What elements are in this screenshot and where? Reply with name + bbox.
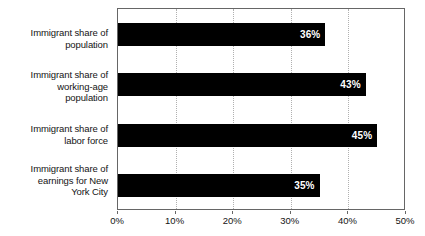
tick-label-0pct: 0%	[97, 215, 137, 226]
category-axis: Immigrant share of population Immigrant …	[0, 8, 112, 210]
bar[interactable]: 35%	[118, 174, 320, 197]
category-label-3-line-2: York City	[0, 186, 108, 198]
bar-chart-figure: Immigrant share of population Immigrant …	[0, 0, 425, 236]
tick-label-20pct: 20%	[212, 215, 252, 226]
category-label-3-line-1: earnings for New	[0, 175, 108, 187]
tick-mark	[117, 211, 118, 214]
category-label-3: Immigrant share of earnings for New York…	[0, 163, 108, 198]
tick-label-30pct: 30%	[270, 215, 310, 226]
tick-label-40pct: 40%	[327, 215, 367, 226]
category-label-2: Immigrant share of labor force	[0, 123, 108, 146]
bar-row: 36%	[118, 23, 406, 46]
bar[interactable]: 43%	[118, 73, 366, 96]
plot-area: 36%43%45%35%	[117, 8, 405, 210]
category-label-0-line-1: population	[0, 39, 108, 51]
bar-value-label: 45%	[352, 124, 372, 147]
bar[interactable]: 45%	[118, 124, 377, 147]
bar-value-label: 43%	[340, 73, 360, 96]
tick-mark	[405, 211, 406, 214]
value-axis: 0%10%20%30%40%50%	[117, 211, 405, 231]
category-label-2-line-1: labor force	[0, 135, 108, 147]
tick-mark	[290, 211, 291, 214]
bar-row: 45%	[118, 124, 406, 147]
category-label-1-line-0: Immigrant share of	[0, 69, 108, 81]
bar-value-label: 35%	[294, 174, 314, 197]
tick-mark	[232, 211, 233, 214]
category-label-3-line-0: Immigrant share of	[0, 163, 108, 175]
category-label-0-line-0: Immigrant share of	[0, 27, 108, 39]
category-label-0: Immigrant share of population	[0, 27, 108, 50]
tick-mark	[175, 211, 176, 214]
category-label-1: Immigrant share of working-age populatio…	[0, 69, 108, 104]
bar[interactable]: 36%	[118, 23, 325, 46]
tick-label-10pct: 10%	[155, 215, 195, 226]
tick-mark	[347, 211, 348, 214]
bar-value-label: 36%	[300, 23, 320, 46]
category-label-2-line-0: Immigrant share of	[0, 123, 108, 135]
category-label-1-line-1: working-age	[0, 81, 108, 93]
bar-row: 43%	[118, 73, 406, 96]
bar-row: 35%	[118, 174, 406, 197]
tick-label-50pct: 50%	[385, 215, 425, 226]
category-label-1-line-2: population	[0, 92, 108, 104]
